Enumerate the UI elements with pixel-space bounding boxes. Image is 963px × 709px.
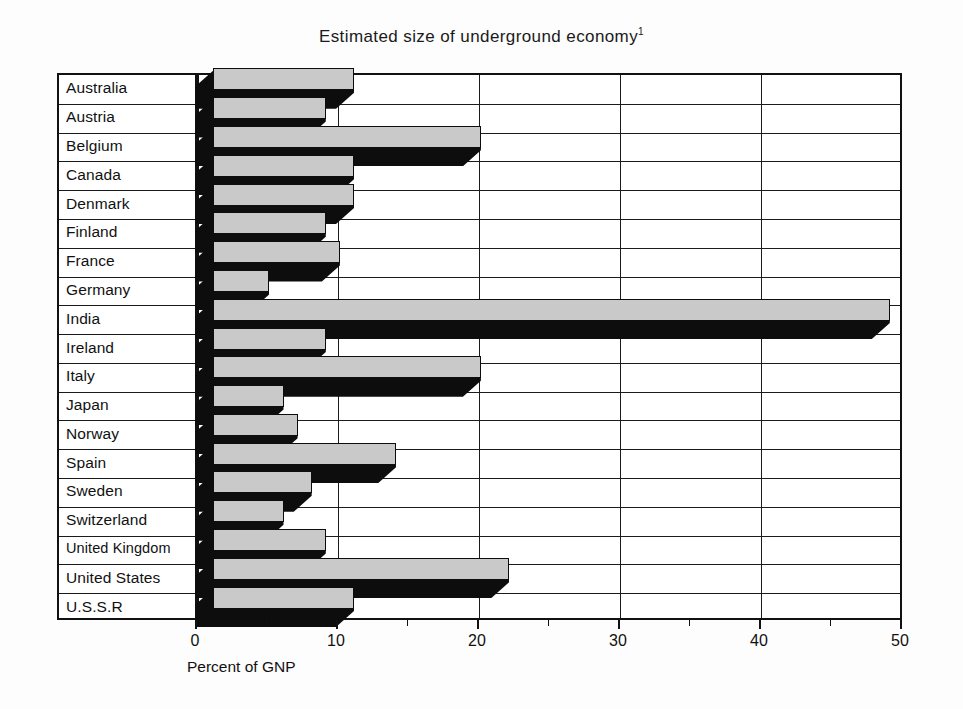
chart-title-footnote-marker: 1 bbox=[638, 26, 644, 37]
vertical-gridline-zero bbox=[197, 75, 199, 618]
category-label-india: India bbox=[66, 310, 100, 328]
vertical-gridline bbox=[761, 75, 762, 618]
x-tick-major-10 bbox=[336, 620, 338, 629]
category-label-denmark: Denmark bbox=[66, 195, 130, 213]
category-label-u-s-s-r: U.S.S.R bbox=[66, 598, 123, 616]
category-label-japan: Japan bbox=[66, 396, 109, 414]
category-label-canada: Canada bbox=[66, 166, 121, 184]
x-axis-title: Percent of GNP bbox=[187, 658, 296, 676]
category-label-norway: Norway bbox=[66, 425, 119, 443]
category-label-finland: Finland bbox=[66, 223, 118, 241]
category-label-united-states: United States bbox=[66, 569, 160, 587]
x-tick-major-20 bbox=[477, 620, 479, 629]
x-tick-label-20: 20 bbox=[468, 632, 486, 650]
x-tick-minor-5 bbox=[266, 620, 267, 626]
category-label-spain: Spain bbox=[66, 454, 106, 472]
category-label-italy: Italy bbox=[66, 367, 95, 385]
category-label-australia: Australia bbox=[66, 79, 127, 97]
category-label-sweden: Sweden bbox=[66, 482, 123, 500]
x-tick-major-0 bbox=[195, 620, 197, 629]
x-tick-major-40 bbox=[759, 620, 761, 629]
x-tick-label-50: 50 bbox=[891, 632, 909, 650]
vertical-gridline bbox=[620, 75, 621, 618]
chart-title: Estimated size of underground economy1 bbox=[0, 26, 963, 47]
x-tick-minor-45 bbox=[830, 620, 831, 626]
chart-title-text: Estimated size of underground economy bbox=[319, 27, 638, 46]
x-tick-minor-35 bbox=[689, 620, 690, 626]
category-label-germany: Germany bbox=[66, 281, 130, 299]
category-label-ireland: Ireland bbox=[66, 339, 114, 357]
x-tick-major-30 bbox=[618, 620, 620, 629]
category-label-austria: Austria bbox=[66, 108, 115, 126]
plot-frame: AustraliaAustriaBelgiumCanadaDenmarkFinl… bbox=[57, 73, 902, 620]
category-label-united-kingdom: United Kingdom bbox=[66, 540, 171, 556]
vertical-gridline bbox=[479, 75, 480, 618]
category-label-france: France bbox=[66, 252, 115, 270]
x-tick-label-10: 10 bbox=[327, 632, 345, 650]
vertical-gridline bbox=[338, 75, 339, 618]
x-axis: 01020304050 Percent of GNP bbox=[57, 620, 902, 690]
category-label-belgium: Belgium bbox=[66, 137, 123, 155]
x-tick-label-0: 0 bbox=[191, 632, 200, 650]
x-tick-label-30: 30 bbox=[609, 632, 627, 650]
x-tick-minor-25 bbox=[548, 620, 549, 626]
x-tick-label-40: 40 bbox=[750, 632, 768, 650]
x-tick-major-50 bbox=[900, 620, 902, 629]
chart-figure: Estimated size of underground economy1 A… bbox=[0, 0, 963, 709]
category-label-switzerland: Switzerland bbox=[66, 511, 147, 529]
x-tick-minor-15 bbox=[407, 620, 408, 626]
